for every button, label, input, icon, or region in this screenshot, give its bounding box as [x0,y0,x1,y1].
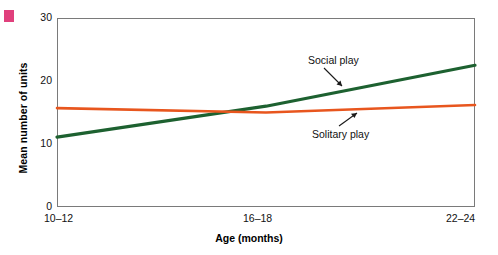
series-label-solitary-play: Solitary play [312,128,369,140]
figure-container: 30 20 10 0 Mean number of units Social p… [0,0,498,255]
series-label-social-play: Social play [308,54,359,66]
x-tick-label-22-24: 22–24 [446,212,475,224]
line-social-play [57,65,475,137]
solitary-play-annotation-arrow [339,113,357,126]
x-tick-label-10-12: 10–12 [44,212,73,224]
x-axis-title: Age (months) [0,232,498,244]
social-play-annotation-arrow [324,68,342,86]
x-tick-label-16-18: 16–18 [243,212,272,224]
